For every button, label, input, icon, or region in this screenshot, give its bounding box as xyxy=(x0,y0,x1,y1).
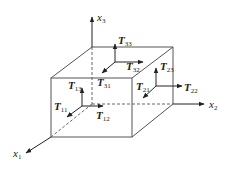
cube xyxy=(51,47,173,137)
cube-edge-bottom-right xyxy=(132,104,173,137)
x1-axis-arrow xyxy=(26,137,51,153)
cube-edge-top-left xyxy=(51,47,92,78)
T12-label: T12 xyxy=(96,109,110,123)
T13-label: T13 xyxy=(68,79,82,93)
T22-label: T22 xyxy=(184,81,198,95)
T23-label: T23 xyxy=(160,60,174,74)
T11-arrow xyxy=(67,106,82,117)
T11-label: T11 xyxy=(54,100,68,114)
stress-tensor-diagram: x3 x2 x1 T33 T32 T31 T23 T21 T22 T13 T11… xyxy=(0,0,229,171)
right-face-stresses: T23 T21 T22 xyxy=(136,60,198,98)
T31-arrow xyxy=(102,62,115,73)
T33-label: T33 xyxy=(118,34,132,48)
x3-label: x3 xyxy=(96,11,106,25)
x1-label: x1 xyxy=(12,147,22,161)
T21-label: T21 xyxy=(136,80,150,94)
x2-label: x2 xyxy=(208,98,218,112)
